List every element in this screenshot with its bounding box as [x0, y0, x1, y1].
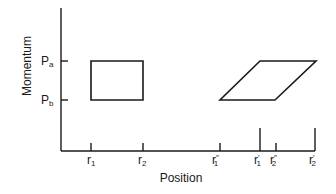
x-tick-label-r2: r2 [138, 153, 147, 168]
x-tick-label-r1p: r′1 [254, 153, 262, 168]
x-tick-label-r2pp: r″2 [270, 153, 277, 168]
sheared-parallelogram [220, 61, 316, 100]
initial-rectangle [91, 61, 143, 100]
x-tick-label-r1: r1 [87, 153, 96, 168]
x-tick-label-r1pp: r″1 [212, 153, 219, 168]
phase-space-diagram: Pa Pb r1 r2 r″1 r′1 r″2 r′2 Position Mom… [0, 0, 336, 194]
y-tick-label-pa: Pa [41, 54, 54, 69]
x-tick-label-r2p: r′2 [309, 153, 317, 168]
y-tick-label-pb: Pb [41, 93, 54, 108]
x-axis-title: Position [160, 171, 203, 185]
y-axis-title: Momentum [20, 36, 34, 96]
